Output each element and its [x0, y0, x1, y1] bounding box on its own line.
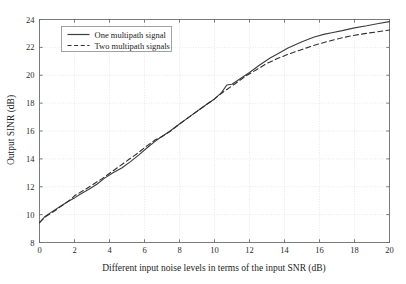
y-tick-label: 14: [26, 154, 35, 164]
x-tick-label: 8: [177, 245, 181, 255]
y-tick-label: 22: [26, 42, 35, 52]
y-tick-label: 24: [26, 15, 35, 25]
y-tick-label: 8: [30, 238, 34, 248]
x-tick-label: 16: [315, 245, 324, 255]
y-axis-title: Output SINR (dB): [6, 95, 17, 165]
legend-label-1: One multipath signal: [95, 30, 167, 40]
y-tick-label: 20: [26, 70, 35, 80]
legend-label-2: Two multipath signals: [95, 41, 170, 51]
chart-figure: 0246810121416182081012141618202224 One m…: [0, 0, 406, 284]
x-tick-label: 6: [142, 245, 146, 255]
x-tick-label: 2: [72, 245, 76, 255]
chart-legend: One multipath signalTwo multipath signal…: [62, 27, 172, 52]
y-tick-label: 10: [26, 210, 35, 220]
chart-background: [0, 0, 406, 284]
line-chart: 0246810121416182081012141618202224 One m…: [0, 0, 406, 284]
x-tick-label: 20: [385, 245, 394, 255]
x-tick-label: 18: [350, 245, 359, 255]
x-tick-label: 14: [280, 245, 289, 255]
x-axis-title: Different input noise levels in terms of…: [102, 263, 326, 274]
y-tick-label: 18: [26, 98, 35, 108]
x-tick-label: 0: [37, 245, 41, 255]
x-tick-label: 10: [210, 245, 219, 255]
y-tick-label: 16: [26, 126, 35, 136]
y-tick-label: 12: [26, 182, 35, 192]
x-tick-label: 12: [245, 245, 254, 255]
